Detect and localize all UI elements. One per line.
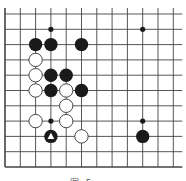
black-stone (44, 84, 57, 97)
white-stone (29, 84, 42, 97)
black-stone (75, 38, 88, 51)
go-board-diagram (0, 0, 186, 181)
black-stone (44, 69, 57, 82)
point-marker-dot (140, 27, 145, 32)
white-stone (59, 99, 72, 112)
white-stone (29, 69, 42, 82)
white-stone (59, 84, 72, 97)
white-stone (29, 114, 42, 127)
black-stone (136, 130, 149, 143)
black-stone (44, 38, 57, 51)
white-stone (75, 130, 88, 143)
black-stone (75, 84, 88, 97)
point-marker-dot (140, 119, 145, 124)
point-marker-dot (48, 27, 53, 32)
point-marker-dot (48, 119, 53, 124)
black-stone (59, 69, 72, 82)
white-stone (29, 53, 42, 66)
figure-caption: 图 5 - 157 (70, 176, 120, 181)
black-stone (29, 38, 42, 51)
white-stone (59, 114, 72, 127)
